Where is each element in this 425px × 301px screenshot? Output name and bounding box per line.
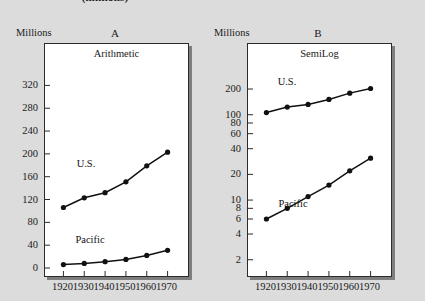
series-line <box>266 88 370 112</box>
y-tick-label: 160 <box>0 170 38 181</box>
data-point-marker <box>82 195 87 200</box>
series-lines-b <box>248 44 391 276</box>
y-tick-label: 10 <box>199 194 241 205</box>
x-tick-label: 1920 <box>52 281 73 292</box>
y-axis-caption-panel-b: Millions <box>214 27 250 38</box>
x-tick-label: 1960 <box>338 281 359 292</box>
y-tick-label: 320 <box>0 79 38 90</box>
data-point-marker <box>61 205 66 210</box>
data-point-marker <box>144 253 149 258</box>
x-tick-label: 1970 <box>156 281 177 292</box>
data-point-marker <box>123 257 128 262</box>
data-point-marker <box>326 97 331 102</box>
panel-letter-a: A <box>95 27 135 39</box>
y-tick-label: 60 <box>199 127 241 138</box>
figure-canvas: (millions) Millions A Arithmetic Million… <box>0 0 425 301</box>
series-label: Pacific <box>278 198 307 209</box>
data-point-marker <box>165 150 170 155</box>
data-point-marker <box>368 156 373 161</box>
x-tick-label: 1970 <box>359 281 380 292</box>
y-tick-label: 80 <box>0 216 38 227</box>
data-point-marker <box>102 259 107 264</box>
plot-area-b <box>248 44 391 276</box>
x-tick-label: 1950 <box>317 281 338 292</box>
y-tick-label: 20 <box>199 168 241 179</box>
chart-panel-b: SemiLog <box>247 43 392 277</box>
data-point-marker <box>165 248 170 253</box>
y-tick-label: 120 <box>0 193 38 204</box>
x-tick-label: 1940 <box>94 281 115 292</box>
x-tick-label: 1960 <box>135 281 156 292</box>
data-point-marker <box>123 179 128 184</box>
data-point-marker <box>326 182 331 187</box>
y-axis-caption-panel-a: Millions <box>16 27 52 38</box>
data-point-marker <box>305 102 310 107</box>
data-point-marker <box>264 216 269 221</box>
data-point-marker <box>82 261 87 266</box>
series-lines-a <box>45 44 188 276</box>
x-tick-label: 1940 <box>297 281 318 292</box>
y-tick-label: 6 <box>199 213 241 224</box>
y-tick-label: 240 <box>0 125 38 136</box>
plot-area-a <box>45 44 188 276</box>
y-tick-label: 40 <box>0 239 38 250</box>
x-tick-label: 1930 <box>276 281 297 292</box>
chart-panel-a: Arithmetic <box>44 43 189 277</box>
panel-letter-b: B <box>298 27 338 39</box>
x-tick-label: 1930 <box>73 281 94 292</box>
x-tick-label: 1950 <box>114 281 135 292</box>
data-point-marker <box>347 168 352 173</box>
y-tick-label: 0 <box>0 262 38 273</box>
y-tick-label: 2 <box>199 253 241 264</box>
y-tick-label: 100 <box>199 108 241 119</box>
figure-suptitle: (millions) <box>0 0 210 3</box>
y-tick-label: 4 <box>199 228 241 239</box>
data-point-marker <box>61 262 66 267</box>
data-point-marker <box>102 190 107 195</box>
y-tick-label: 280 <box>0 102 38 113</box>
data-point-marker <box>285 104 290 109</box>
data-point-marker <box>347 91 352 96</box>
data-point-marker <box>368 86 373 91</box>
series-line <box>63 250 167 264</box>
y-tick-label: 200 <box>199 83 241 94</box>
y-tick-label: 40 <box>199 142 241 153</box>
series-line <box>266 158 370 219</box>
data-point-marker <box>144 163 149 168</box>
series-label: U.S. <box>77 158 96 169</box>
y-tick-label: 200 <box>0 147 38 158</box>
series-label: Pacific <box>75 234 104 245</box>
data-point-marker <box>264 110 269 115</box>
x-tick-label: 1920 <box>255 281 276 292</box>
series-label: U.S. <box>278 76 297 87</box>
